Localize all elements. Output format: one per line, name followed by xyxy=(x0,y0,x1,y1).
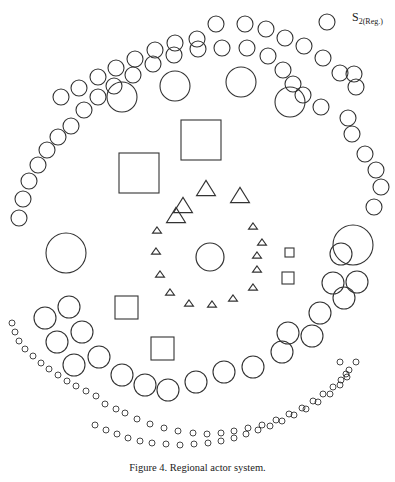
actor-triangle xyxy=(174,197,193,212)
small-actor-circle xyxy=(137,438,143,444)
small-actor-circle xyxy=(147,421,153,427)
actor-circle xyxy=(39,142,55,158)
actor-circle xyxy=(344,126,360,142)
actor-circle xyxy=(213,361,235,383)
small-actor-circle xyxy=(30,353,36,359)
small-actor-circle xyxy=(218,438,224,444)
actor-circle xyxy=(145,56,161,72)
small-actor-circle xyxy=(55,372,61,378)
actor-triangle xyxy=(253,266,262,272)
actor-circle xyxy=(50,129,66,145)
actor-circle xyxy=(313,99,329,115)
small-actor-circle xyxy=(134,416,140,422)
small-actor-circle xyxy=(243,431,249,437)
small-actor-circle xyxy=(125,435,131,441)
actor-circle xyxy=(301,325,323,347)
actor-circle xyxy=(185,371,207,393)
actor-circle xyxy=(125,67,141,83)
small-actor-circle xyxy=(102,401,108,407)
actor-circle xyxy=(242,356,264,378)
actor-circle xyxy=(340,110,356,126)
small-actor-circle xyxy=(64,378,70,384)
actor-circle xyxy=(134,374,156,396)
actor-circle xyxy=(157,379,179,401)
actor-triangle xyxy=(258,239,267,245)
small-actor-circle xyxy=(330,384,336,390)
actor-triangle xyxy=(229,295,238,301)
small-actor-circle xyxy=(83,388,89,394)
small-actor-circle xyxy=(93,393,99,399)
actor-circle xyxy=(53,89,69,105)
actor-circle xyxy=(30,157,46,173)
small-actor-circle xyxy=(161,425,167,431)
actor-circle xyxy=(147,42,163,58)
figure-caption: Figure 4. Regional actor system. xyxy=(0,462,395,473)
actor-square xyxy=(115,296,138,319)
actor-circle xyxy=(21,173,37,189)
small-actor-circle xyxy=(204,431,210,437)
actor-circle xyxy=(315,50,331,66)
actor-circle xyxy=(346,271,368,293)
small-actor-circle xyxy=(259,422,265,428)
actor-square xyxy=(181,120,221,160)
actor-circle xyxy=(309,302,331,324)
small-actor-circle xyxy=(245,425,251,431)
small-actor-circle xyxy=(177,442,183,448)
actor-square xyxy=(119,153,159,193)
large-actor-circle xyxy=(160,71,190,101)
inner-ring-circles xyxy=(53,14,364,105)
actor-triangle xyxy=(185,300,194,306)
actor-square xyxy=(285,248,294,257)
small-actor-circle xyxy=(22,346,28,352)
large-actor-circle xyxy=(333,225,373,265)
actor-circle xyxy=(76,102,92,118)
actor-circle xyxy=(34,307,56,329)
actor-circle xyxy=(322,272,344,294)
hatched-center-circle xyxy=(196,243,224,271)
system-label-main: S xyxy=(352,10,359,24)
small-actor-circle xyxy=(255,427,261,433)
small-dot-row-1 xyxy=(9,320,359,437)
small-actor-circle xyxy=(320,391,326,397)
regional-actor-system-diagram xyxy=(0,0,395,482)
large-circles xyxy=(46,67,373,273)
actor-circle xyxy=(368,162,384,178)
small-actor-circle xyxy=(205,440,211,446)
actor-triangle xyxy=(166,289,175,295)
small-actor-circle xyxy=(16,338,22,344)
system-label-subscript: 2(Reg.) xyxy=(359,17,383,26)
actor-circle xyxy=(333,287,355,309)
actor-triangle xyxy=(249,284,258,290)
actor-circle xyxy=(319,14,335,30)
actor-circle xyxy=(237,16,253,32)
small-actor-circle xyxy=(175,428,181,434)
actor-circle xyxy=(260,48,276,64)
actor-triangle xyxy=(208,301,217,307)
squares xyxy=(115,120,294,360)
small-actor-circle xyxy=(218,430,224,436)
actor-circle xyxy=(296,38,312,54)
actor-circle xyxy=(58,296,80,318)
actor-circle xyxy=(258,21,274,37)
small-actor-circle xyxy=(190,430,196,436)
small-actor-circle xyxy=(9,320,15,326)
small-actor-circle xyxy=(303,406,309,412)
small-actor-circle xyxy=(122,410,128,416)
actor-square xyxy=(282,272,294,284)
actor-circle xyxy=(189,31,205,47)
small-actor-circle xyxy=(38,360,44,366)
small-actor-circle xyxy=(353,359,359,365)
system-label: S2(Reg.) xyxy=(352,10,383,26)
small-actor-circle xyxy=(299,405,305,411)
actor-square xyxy=(151,337,174,360)
small-actor-circle xyxy=(191,441,197,447)
small-actor-circle xyxy=(113,406,119,412)
small-actor-circle xyxy=(273,417,279,423)
actor-triangle xyxy=(253,252,262,258)
actor-circle xyxy=(46,331,68,353)
actor-triangle xyxy=(156,271,165,277)
large-actor-circle xyxy=(226,67,256,97)
actor-triangle xyxy=(197,180,216,195)
actor-circle xyxy=(111,364,133,386)
actor-circle xyxy=(71,80,87,96)
